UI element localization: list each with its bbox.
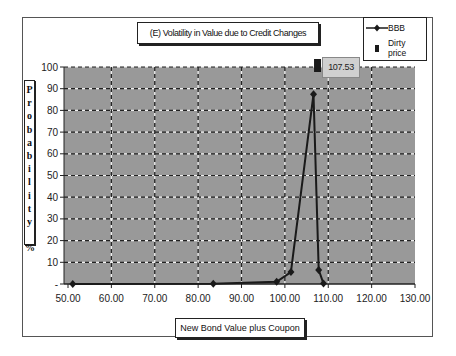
y-tick-label: 80 [47,105,59,116]
y-tick-label: 90 [47,83,59,94]
x-axis-label: New Bond Value plus Coupon [175,318,305,338]
x-tick-label: 60.00 [99,293,124,304]
x-tick-label: 80.00 [186,293,211,304]
legend-label-bbb: BBB [388,23,405,33]
y-tick-label: 40 [47,192,59,203]
dirty-price-annotation: 107.53 [322,57,360,78]
y-axis-label-char: i [25,189,34,202]
y-axis-label-char: b [25,123,34,136]
y-tick-label: 100 [41,62,58,73]
y-tick-label: - [55,279,58,290]
y-axis-label-char: b [25,149,34,162]
y-tick-label: 10 [47,257,59,268]
y-axis-label-char: o [25,109,34,122]
y-axis-label-char: y [25,215,34,228]
y-axis-label-char: % [25,241,34,254]
x-tick-label: 70.00 [142,293,167,304]
legend-item-dirty-price: Dirty price [366,41,426,55]
y-axis-label-char: P [25,83,34,96]
y-axis-label-char: r [25,96,34,109]
x-tick-label: 110.00 [313,293,343,304]
square-marker-icon [366,43,388,53]
y-axis-label-char [25,228,34,241]
chart-title: (E) Volatility in Value due to Credit Ch… [137,22,319,44]
legend: BBB Dirty price [363,17,427,61]
line-diamond-icon [366,23,388,33]
y-tick-label: 50 [47,170,59,181]
y-axis-label-char: l [25,175,34,188]
legend-label-dirty-price: Dirty price [388,38,426,58]
y-axis-label-char: t [25,202,34,215]
x-tick-label: 50.00 [55,293,80,304]
y-axis-label: Probability % [24,80,35,245]
y-axis-label-char: a [25,136,34,149]
x-tick-label: 90.00 [229,293,254,304]
y-tick-label: 30 [47,213,59,224]
y-tick-label: 70 [47,127,59,138]
x-tick-label: 120.00 [356,293,387,304]
legend-item-bbb: BBB [366,21,405,35]
y-axis-label-char: i [25,162,34,175]
y-tick-label: 60 [47,148,59,159]
x-tick-label: 130.00 [400,293,431,304]
dirty-price-marker [314,59,321,72]
x-tick-label: 100.00 [270,293,301,304]
y-tick-label: 20 [47,235,59,246]
